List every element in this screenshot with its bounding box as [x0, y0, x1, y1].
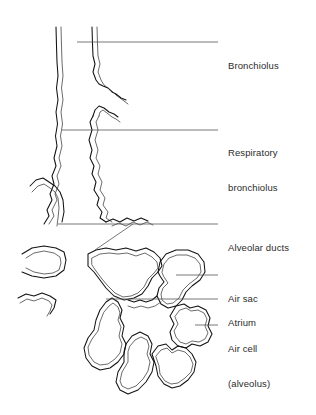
alveolus-lobe-center [116, 332, 154, 394]
alveolus-lobe-right [152, 344, 196, 388]
alveolar-duct-fragment-lower-left [18, 293, 56, 316]
alveolus-lobe-left [84, 298, 126, 370]
air-cell-outline [170, 304, 212, 348]
leader-alveolar-ducts-branch [95, 224, 133, 250]
label-air-cell-line1: Air cell [228, 343, 270, 355]
alveolar-duct-fragment-mid-left [22, 246, 66, 278]
label-air-cell-line2: (alveolus) [228, 378, 270, 390]
label-bronchiolus: Bronchiolus [228, 37, 279, 83]
label-bronchiolus-line1: Bronchiolus [228, 60, 279, 72]
label-alveolar-ducts: Alveolar ducts [228, 219, 289, 265]
label-respiratory-bronchiolus-line2: bronchiolus [228, 182, 278, 194]
air-sac-outline [88, 248, 162, 300]
alveolar-duct-run [106, 218, 153, 226]
bronchiolus-tube [44, 27, 63, 224]
label-respiratory-bronchiolus-line1: Respiratory [228, 147, 278, 159]
respiratory-bronchiolus-tube [89, 116, 112, 222]
label-respiratory-bronchiolus: Respiratory bronchiolus [228, 124, 278, 205]
bronchiolus-branch-tube [92, 27, 128, 104]
label-air-cell-alveolus: Air cell (alveolus) [228, 320, 270, 401]
label-alveolar-ducts-line1: Alveolar ducts [228, 242, 289, 254]
leader-lines [58, 42, 218, 325]
